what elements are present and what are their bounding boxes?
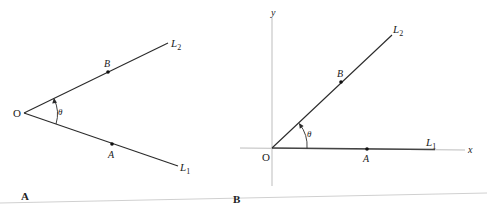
panel-b-label: B — [233, 193, 241, 205]
ray-l2 — [24, 43, 168, 113]
point-b — [106, 70, 110, 74]
ray-l1 — [24, 113, 178, 166]
page-separator-line — [0, 193, 487, 203]
origin-label: O — [262, 151, 270, 163]
panel-a: O θ B A L2 L1 A — [13, 37, 190, 202]
ray-l1 — [272, 148, 435, 150]
point-a — [365, 147, 369, 151]
panel-a-label: A — [21, 190, 29, 202]
point-a-label: A — [107, 149, 115, 160]
point-b — [339, 80, 343, 84]
line-l1-label: L1 — [425, 136, 436, 151]
line-l1-label: L1 — [179, 161, 190, 176]
ray-l2 — [272, 35, 392, 148]
angle-arrowhead-icon — [299, 123, 304, 129]
panel-b: y x O θ B A L2 L1 B — [233, 7, 473, 205]
line-l2-label: L2 — [170, 37, 181, 52]
point-a — [110, 142, 114, 146]
angle-label: θ — [58, 107, 63, 117]
point-b-label: B — [337, 68, 343, 79]
point-a-label: A — [362, 153, 370, 164]
angle-label: θ — [307, 129, 312, 139]
diagram-canvas: O θ B A L2 L1 A y x O θ B A L2 L1 B — [0, 0, 487, 215]
point-b-label: B — [104, 58, 110, 69]
x-axis-label: x — [467, 144, 473, 155]
line-l2-label: L2 — [392, 23, 403, 38]
y-axis-label: y — [270, 7, 276, 18]
origin-label: O — [13, 107, 21, 119]
